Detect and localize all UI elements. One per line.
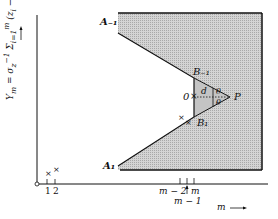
v-mask-diagram [0,0,278,219]
label-theta-upper: θ [216,88,221,96]
label-theta-lower: θ [216,99,221,107]
label-b-minus-1: B₋₁ [193,67,210,77]
marker-x: × [185,119,192,127]
x-tick-1: 1 [45,187,51,196]
marker-x: × [53,166,60,174]
x-tick-m: m [191,187,200,196]
label-a-minus-1: A₋₁ [100,17,117,27]
label-p: P [234,92,241,102]
label-b-1: B₁ [197,118,208,128]
x-tick-m-minus-2: m − 2 [159,187,187,196]
x-tick-m-minus-1: m − 1 [174,197,202,206]
x-tick-2: 2 [53,187,59,196]
y-axis-label: Ym = σz−1 Σi=1m (zi − μ0) [2,0,18,100]
marker-x: × [178,114,185,122]
label-d: d [201,87,207,96]
marker-origin: × [190,92,198,101]
label-a-1: A₁ [103,161,115,171]
label-origin: 0 [183,92,189,102]
marker-x: × [45,170,52,178]
x-axis-label: m [217,203,226,212]
